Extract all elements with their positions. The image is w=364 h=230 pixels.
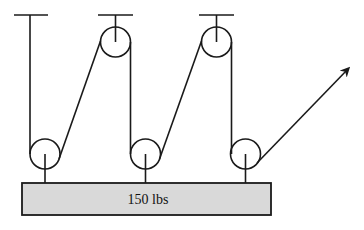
weight-label: 150 lbs bbox=[128, 192, 169, 207]
pull-force-arrow bbox=[257, 69, 348, 163]
rope-segment-2 bbox=[59, 41, 101, 159]
rope-segment-4 bbox=[160, 41, 202, 159]
pulley-diagram: 150 lbs bbox=[0, 0, 364, 230]
